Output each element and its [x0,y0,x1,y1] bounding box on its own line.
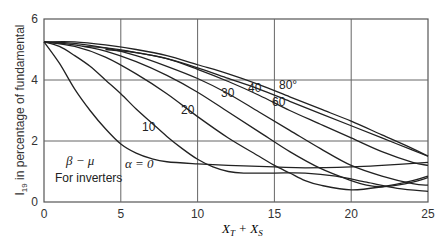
series-line [44,42,428,190]
x-tick-label: 15 [268,207,282,221]
y-tick-label: 2 [31,134,38,148]
curve-labels: 30 20 10 40 60 80° α = 0 β − μ For inver… [55,78,297,185]
chart: 05101520250246 30 20 10 40 60 80° α = 0 … [0,0,447,246]
x-tick-label: 0 [41,207,48,221]
y-tick-label: 0 [31,195,38,209]
curve-label-60: 60 [272,95,286,109]
x-tick-label: 25 [421,207,435,221]
curve-label-30: 30 [221,86,235,100]
series-line [44,42,428,157]
x-axis-label: XT + XS [221,221,263,238]
curve-label-10: 10 [142,120,156,134]
curve-label-alpha0: α = 0 [125,156,154,171]
series-line [44,42,428,185]
series-line [82,46,428,165]
y-tick-label: 6 [31,12,38,26]
curve-label-20: 20 [181,103,195,117]
x-tick-label: 20 [345,207,359,221]
curves [44,42,428,192]
y-tick-label: 4 [31,73,38,87]
annotation-for-inverters: For inverters [55,171,122,185]
series-line [105,50,428,157]
y-axis-label: I19 in percentage of fundamental [13,24,29,195]
x-tick-label: 10 [191,207,205,221]
annotation-beta-mu: β − μ [65,153,95,168]
curve-label-40: 40 [248,81,262,95]
series-line [44,42,428,168]
curve-label-80: 80° [279,78,297,92]
x-tick-label: 5 [117,207,124,221]
